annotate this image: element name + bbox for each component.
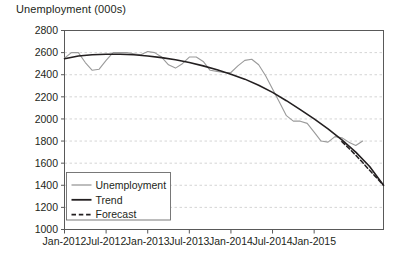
- chart-legend: UnemploymentTrendForecast: [67, 173, 171, 221]
- x-tick-label: Jul-2014: [252, 235, 292, 247]
- series-line-unemployment: [65, 52, 363, 146]
- y-tick-label: 2200: [35, 91, 59, 103]
- y-tick-label: 2600: [35, 46, 59, 58]
- x-tick-label: Jan-2013: [126, 235, 170, 247]
- y-tick-label: 1600: [35, 157, 59, 169]
- x-tick-label: Jan-2015: [292, 235, 336, 247]
- y-tick-label: 1200: [35, 201, 59, 213]
- y-tick-label: 1000: [35, 223, 59, 235]
- x-axis-ticks: [65, 230, 315, 234]
- x-tick-label: Jul-2013: [169, 235, 209, 247]
- y-tick-label: 1400: [35, 179, 59, 191]
- x-tick-label: Jan-2014: [209, 235, 253, 247]
- y-tick-label: 2400: [35, 68, 59, 80]
- legend-label: Forecast: [96, 208, 137, 220]
- y-tick-label: 2000: [35, 113, 59, 125]
- legend-label: Trend: [96, 194, 123, 206]
- x-axis-tick-labels: Jan-2012Jul-2012Jan-2013Jul-2013Jan-2014…: [43, 235, 337, 247]
- series-line-trend: [65, 54, 384, 185]
- x-tick-label: Jan-2012: [43, 235, 87, 247]
- y-axis-ticks: [61, 31, 65, 230]
- data-series-layer: [65, 52, 384, 186]
- y-tick-label: 2800: [35, 24, 59, 36]
- y-axis-tick-labels: 1000120014001600180020002200240026002800: [35, 24, 59, 235]
- unemployment-line-chart: 1000120014001600180020002200240026002800…: [0, 0, 401, 261]
- y-tick-label: 1800: [35, 135, 59, 147]
- chart-container: Unemployment (000s) 10001200140016001800…: [0, 0, 401, 261]
- x-tick-label: Jul-2012: [86, 235, 126, 247]
- series-line-forecast: [342, 142, 384, 186]
- legend-label: Unemployment: [96, 179, 167, 191]
